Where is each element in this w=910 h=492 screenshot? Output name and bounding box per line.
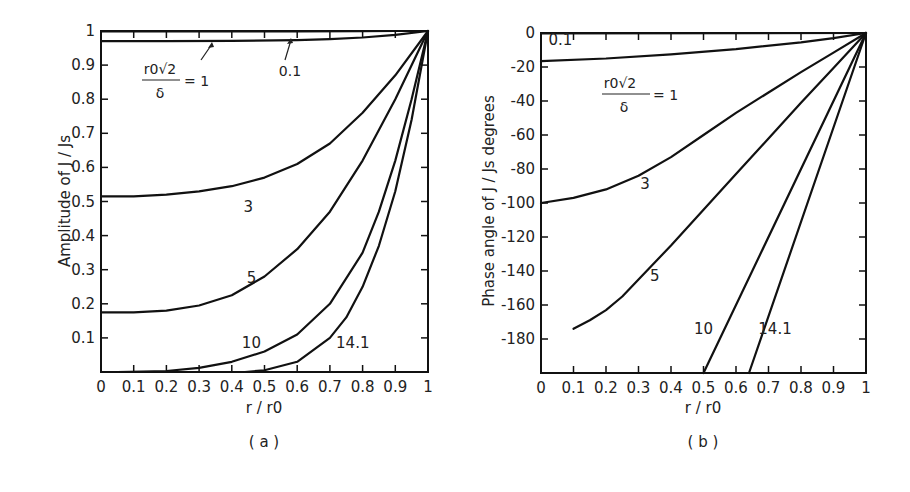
y-tick-label: 0.5 [71,193,95,211]
y-tick-label: -120 [501,228,535,246]
curve-label: 10 [694,320,713,338]
y-tick-label: -80 [511,160,536,178]
curve-label: 5 [650,267,660,285]
figure: 00.10.20.30.40.50.60.70.80.910.10.20.30.… [0,0,910,492]
x-tick-label: 0.8 [351,378,375,396]
x-tick-label: 0 [536,379,546,397]
x-tick-label: 0.1 [122,378,146,396]
panel-a-caption: ( a ) [249,433,279,451]
x-tick-label: 0 [96,378,106,396]
panel-a-amplitude-chart: 00.10.20.30.40.50.60.70.80.910.10.20.30.… [71,22,433,396]
y-tick-label: 1 [85,22,95,40]
x-tick-label: 0.3 [627,379,651,397]
param-denominator: δ [156,85,165,101]
y-tick-label: -160 [501,296,535,314]
param-denominator: δ [620,99,629,115]
panel-b-phase-chart: 00.10.20.30.40.50.60.70.80.910-20-40-60-… [501,24,871,397]
x-tick-label: 0.6 [285,378,309,396]
panel-a-parameter-label: r0√2 δ = 1 [142,42,214,101]
y-tick-label: 0.7 [71,124,95,142]
y-tick-label: 0.9 [71,56,95,74]
curve-label: 3 [243,198,253,216]
x-tick-label: 1 [423,378,433,396]
x-tick-label: 0.2 [594,379,618,397]
curve-3 [101,31,428,196]
x-tick-label: 1 [861,379,871,397]
y-tick-label: 0 [525,24,535,42]
x-tick-label: 0.5 [692,379,716,397]
panel-a-x-axis-label: r / r0 [246,399,282,417]
y-tick-label: -20 [511,58,536,76]
y-tick-label: -140 [501,262,535,280]
x-tick-label: 0.7 [318,378,342,396]
y-tick-label: 0.1 [71,329,95,347]
x-tick-label: 0.7 [757,379,781,397]
panel-b-y-axis-label: Phase angle of J / Js degrees [480,95,498,307]
x-tick-label: 0.4 [220,378,244,396]
y-tick-label: 0.3 [71,261,95,279]
y-tick-label: 0.2 [71,295,95,313]
x-tick-label: 0.9 [822,379,846,397]
y-tick-label: -180 [501,330,535,348]
x-tick-label: 0.8 [789,379,813,397]
x-tick-label: 0.1 [562,379,586,397]
y-tick-label: -100 [501,194,535,212]
param-equals: = 1 [653,87,678,103]
panel-b-x-axis-label: r / r0 [685,399,721,417]
x-tick-label: 0.3 [187,378,211,396]
param-numerator: r0√2 [144,61,177,77]
y-tick-label: 0.4 [71,227,95,245]
panel-a-y-axis-label: Amplitude of J / Js [56,135,74,267]
plot-frame [101,31,428,372]
curve-label: 14.1 [758,320,791,338]
curve-label: 5 [247,269,257,287]
curve-label: 14.1 [336,334,369,352]
y-tick-label: 0.6 [71,158,95,176]
x-tick-label: 0.5 [253,378,277,396]
y-tick-label: -60 [511,126,536,144]
x-tick-label: 0.6 [724,379,748,397]
x-tick-label: 0.4 [659,379,683,397]
y-tick-label: -40 [511,92,536,110]
curve-label: 0.1 [549,31,573,49]
x-tick-label: 0.9 [383,378,407,396]
panel-b-parameter-label: r0√2 δ = 1 [602,75,678,115]
x-tick-label: 0.2 [154,378,178,396]
panel-a-label-0.1: 0.1 [279,38,301,79]
curve-10 [117,31,428,372]
curve-label: 10 [242,334,261,352]
svg-text:0.1: 0.1 [279,63,301,79]
param-numerator: r0√2 [604,75,637,91]
panel-b-caption: ( b ) [688,433,719,451]
param-equals: = 1 [184,73,209,89]
curve-label: 3 [640,175,650,193]
y-tick-label: 0.8 [71,90,95,108]
